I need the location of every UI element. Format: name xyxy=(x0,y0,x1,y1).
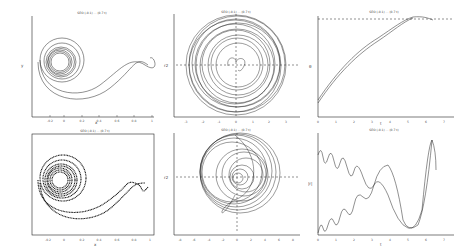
x-axis-label: x xyxy=(94,242,97,247)
svg-text:0: 0 xyxy=(317,120,319,124)
svg-text:-3: -3 xyxy=(185,120,188,124)
plot-title: SEO (-0.1) ... (0.7 t) xyxy=(369,128,398,132)
y-axis-label: y xyxy=(21,63,24,68)
svg-text:6: 6 xyxy=(425,120,427,124)
y-axis-label: r2 xyxy=(164,63,169,68)
svg-text:0: 0 xyxy=(317,238,319,242)
svg-text:1: 1 xyxy=(335,238,337,242)
svg-text:8: 8 xyxy=(292,238,294,242)
svg-text:-6: -6 xyxy=(193,238,196,242)
svg-text:-4: -4 xyxy=(208,238,211,242)
svg-text:4: 4 xyxy=(389,120,391,124)
svg-text:0.8: 0.8 xyxy=(132,119,137,123)
y-axis-label: θ xyxy=(309,64,312,69)
svg-text:1: 1 xyxy=(252,120,254,124)
plot-top-center: SEO (-0.1) ... (0.7 t) -3 -2 -1 0 1 2 3 … xyxy=(160,0,308,125)
svg-text:2: 2 xyxy=(268,120,270,124)
svg-text:6: 6 xyxy=(278,238,280,242)
svg-text:0.6: 0.6 xyxy=(115,119,120,123)
svg-text:0: 0 xyxy=(236,238,238,242)
svg-text:3: 3 xyxy=(285,120,287,124)
svg-text:-8: -8 xyxy=(179,238,182,242)
svg-text:0.2: 0.2 xyxy=(80,119,85,123)
svg-text:1: 1 xyxy=(149,238,151,242)
svg-text:2: 2 xyxy=(250,238,252,242)
plot-top-right: SEO (-0.1) ... (0.7 t) 0 1 2 3 4 5 6 7 t… xyxy=(308,0,462,125)
y-axis-label: r2 xyxy=(164,175,169,180)
plot-title: SEO (-0.1) ... (0.7 t) xyxy=(77,11,106,15)
y-axis-label: |r| xyxy=(308,181,312,186)
svg-text:4: 4 xyxy=(389,238,391,242)
svg-text:6: 6 xyxy=(425,238,427,242)
svg-text:0: 0 xyxy=(63,119,65,123)
svg-text:-2: -2 xyxy=(202,120,205,124)
svg-text:0.8: 0.8 xyxy=(132,238,137,242)
plot-title: SEO (-0.1) ... (0.7 t) xyxy=(369,10,398,14)
plot-bottom-center: SEO (-0.1) ... (0.7 t) -8 -6 -4 -2 0 2 4… xyxy=(160,125,308,249)
plot-bottom-left: SEO (-0.1) ... (0.7 t) -0.2 0 0.2 0.4 0.… xyxy=(0,125,160,249)
svg-text:2: 2 xyxy=(353,238,355,242)
svg-text:0.2: 0.2 xyxy=(80,238,85,242)
plot-title: SEO (-0.1) ... (0.7 t) xyxy=(221,128,250,132)
svg-text:0.4: 0.4 xyxy=(97,238,102,242)
svg-text:1: 1 xyxy=(151,119,153,123)
svg-text:-1: -1 xyxy=(218,120,221,124)
svg-text:2: 2 xyxy=(353,120,355,124)
svg-text:0: 0 xyxy=(235,120,237,124)
svg-text:4: 4 xyxy=(264,238,266,242)
svg-text:0: 0 xyxy=(63,238,65,242)
svg-text:5: 5 xyxy=(407,120,409,124)
svg-text:3: 3 xyxy=(371,238,373,242)
plot-title: SEO (-0.1) ... (0.7 t) xyxy=(221,10,250,14)
x-axis-label: t xyxy=(380,242,382,247)
svg-text:5: 5 xyxy=(407,238,409,242)
svg-text:0.6: 0.6 xyxy=(115,238,120,242)
svg-text:7: 7 xyxy=(443,238,445,242)
plot-bottom-right: SEO (-0.1) ... (0.7 t) 0 1 2 3 4 5 6 7 t… xyxy=(308,125,462,249)
svg-text:1: 1 xyxy=(335,120,337,124)
plot-title: SEO (-0.1) ... (0.7 t) xyxy=(80,129,109,133)
svg-text:-0.2: -0.2 xyxy=(45,238,51,242)
svg-text:-0.2: -0.2 xyxy=(47,119,53,123)
plot-top-left: SEO (-0.1) ... (0.7 t) -0.2 0 0.2 0.4 0.… xyxy=(0,0,160,125)
svg-text:7: 7 xyxy=(443,120,445,124)
svg-text:3: 3 xyxy=(371,120,373,124)
svg-text:-2: -2 xyxy=(222,238,225,242)
